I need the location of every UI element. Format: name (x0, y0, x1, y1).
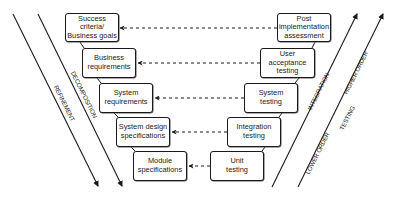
box-system-design-specifications: System design specifications (116, 117, 170, 147)
box-user-acceptance-testing: User acceptance testing (260, 48, 315, 78)
box-module-specifications: Module specifications (133, 151, 187, 181)
box-label: Module specifications (138, 157, 182, 174)
box-system-testing: System testing (244, 83, 298, 113)
box-label: System requirements (104, 89, 147, 106)
box-label: Success criteria/ Business goals (66, 15, 118, 41)
box-label: User acceptance testing (261, 50, 314, 76)
box-success-criteria: Success criteria/ Business goals (65, 13, 119, 42)
v-model-diagram: Success criteria/ Business goals Busines… (0, 0, 394, 201)
box-system-requirements: System requirements (99, 83, 153, 113)
box-label: Unit testing (226, 157, 248, 174)
box-label: Post implementation assessment (279, 15, 329, 41)
box-post-implementation-assessment: Post implementation assessment (277, 13, 331, 42)
box-unit-testing: Unit testing (210, 151, 264, 181)
box-integration-testing: Integration testing (227, 117, 281, 147)
box-label: System design specifications (119, 123, 167, 140)
box-business-requirements: Business requirements (82, 48, 136, 78)
box-label: System testing (259, 89, 284, 106)
box-label: Integration testing (237, 123, 272, 140)
box-label: Business requirements (87, 54, 130, 71)
